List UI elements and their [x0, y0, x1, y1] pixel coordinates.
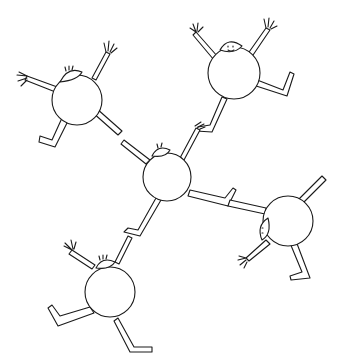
body [143, 153, 191, 201]
body [263, 196, 313, 246]
illustration-canvas [0, 0, 343, 364]
body [85, 267, 135, 317]
body [208, 47, 260, 99]
body [52, 75, 102, 125]
